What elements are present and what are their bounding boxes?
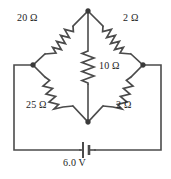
circuit-diagram: 20 Ω 2 Ω 10 Ω 25 Ω 2 Ω 6.0 V	[0, 0, 171, 179]
wire-top-left-upper	[73, 11, 88, 26]
resistor-center-label: 10 Ω	[99, 60, 120, 71]
circuit-schematic-svg	[0, 0, 171, 179]
battery-voltage-label: 6.0 V	[63, 157, 86, 168]
resistor-center	[82, 51, 94, 85]
node-dot-right	[141, 63, 146, 68]
node-dot-top	[86, 9, 91, 14]
resistor-bottom-right-label: 2 Ω	[116, 99, 132, 110]
resistor-top-left-label: 20 Ω	[17, 12, 38, 23]
resistor-top-right-label: 2 Ω	[123, 12, 139, 23]
node-dot-bottom	[86, 120, 91, 125]
battery-symbol	[80, 142, 95, 158]
resistor-bottom-left	[43, 77, 73, 109]
wire-bottom-left-lower	[73, 106, 88, 122]
resistor-top-right	[103, 26, 131, 54]
resistor-bottom-left-label: 25 Ω	[26, 99, 47, 110]
wire-top-right-upper	[88, 11, 103, 26]
node-dot-left	[31, 63, 36, 68]
wire-bottom-right-lower	[88, 106, 103, 122]
resistor-top-left	[45, 26, 73, 54]
